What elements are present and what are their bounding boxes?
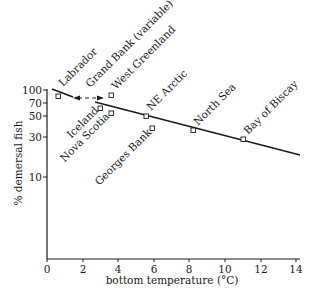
labrador-trend-line xyxy=(52,89,73,97)
point-labels: Labrador Grand Bank (variable) West Gree… xyxy=(56,0,300,187)
label-georges-bank: Georges Bank xyxy=(92,125,154,187)
x-tick-label: 12 xyxy=(254,263,267,275)
y-tick-label: 30 xyxy=(29,131,42,143)
point-bay-of-biscay xyxy=(241,137,246,142)
y-tick-labels: 100 70 50 30 10 xyxy=(22,84,42,183)
x-tick-label: 14 xyxy=(289,263,303,275)
label-ne-arctic: NE Arctic xyxy=(144,67,189,112)
grand-bank-range-arrow xyxy=(73,96,104,101)
point-north-sea xyxy=(191,128,196,133)
point-west-greenland xyxy=(109,93,114,98)
x-tick-label: 2 xyxy=(80,263,87,275)
x-axis-title: bottom temperature (°C) xyxy=(106,274,239,286)
x-tick-label: 0 xyxy=(44,263,51,275)
label-north-sea: North Sea xyxy=(191,80,238,127)
point-ne-arctic xyxy=(144,114,149,119)
point-nova-scotia xyxy=(109,111,114,116)
y-tick-label: 100 xyxy=(22,84,42,96)
y-tick-label: 70 xyxy=(29,97,42,109)
y-tick-label: 50 xyxy=(29,110,42,122)
point-georges-bank xyxy=(150,126,155,131)
chart-canvas: 100 70 50 30 10 0 2 4 6 8 10 12 14 botto… xyxy=(0,0,315,293)
y-tick-label: 10 xyxy=(29,171,42,183)
label-bay-of-biscay: Bay of Biscay xyxy=(241,77,300,136)
y-axis-title: % demersal fish xyxy=(12,120,24,205)
point-labrador xyxy=(56,94,61,99)
